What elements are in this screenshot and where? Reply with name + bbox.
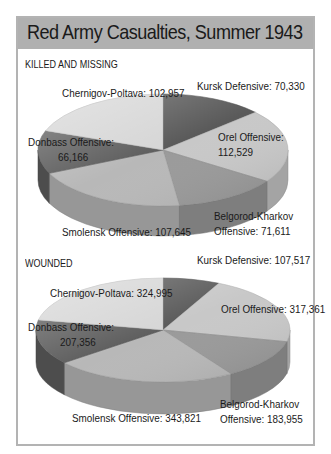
data-label-line: Smolensk Offensive: 343,821 (72, 411, 201, 424)
data-label-line: Orel Offensive: 317,361 (221, 302, 325, 315)
pie-killed-missing: Kursk Defensive: 70,330Orel Offensive:11… (28, 79, 305, 238)
data-label-line: Offensive: 71,611 (214, 224, 291, 237)
data-label-line: Kursk Defensive: 107,517 (197, 253, 310, 266)
data-label-line: Orel Offensive: (218, 130, 284, 143)
data-label-chernigov-poltava: Chernigov-Poltava: 102,957 (62, 86, 185, 99)
data-label-kursk-defensive: Kursk Defensive: 107,517 (197, 253, 310, 266)
data-label-line: Offensive: 183,955 (220, 412, 303, 425)
data-label-line: 207,356 (60, 335, 96, 348)
data-label-line: Donbass Offensive: (28, 320, 114, 333)
data-label-line: 112,529 (218, 145, 253, 158)
data-label-smolensk-offensive: Smolensk Offensive: 107,645 (62, 225, 191, 238)
data-label-line: Belgorod-Kharkov (220, 397, 300, 410)
data-label-smolensk-offensive: Smolensk Offensive: 343,821 (72, 411, 201, 424)
data-label-line: Smolensk Offensive: 107,645 (62, 225, 191, 238)
data-label-chernigov-poltava: Chernigov-Poltava: 324,995 (50, 286, 173, 299)
data-label-line: Chernigov-Poltava: 324,995 (50, 286, 173, 299)
data-label-line: Belgorod-Kharkov (214, 209, 294, 222)
data-label-line: Donbass Offensive: (28, 135, 114, 148)
pie-wounded: Kursk Defensive: 107,517Orel Offensive: … (28, 253, 325, 425)
data-label-line: Kursk Defensive: 70,330 (197, 79, 305, 92)
pie-charts: Kursk Defensive: 70,330Orel Offensive:11… (0, 0, 331, 454)
data-label-orel-offensive: Orel Offensive: 317,361 (221, 302, 325, 315)
data-label-belgorod-kharkov-offensive: Belgorod-KharkovOffensive: 183,955 (220, 397, 303, 425)
data-label-line: Chernigov-Poltava: 102,957 (62, 86, 185, 99)
data-label-kursk-defensive: Kursk Defensive: 70,330 (197, 79, 305, 92)
data-label-line: 66,166 (58, 150, 88, 163)
